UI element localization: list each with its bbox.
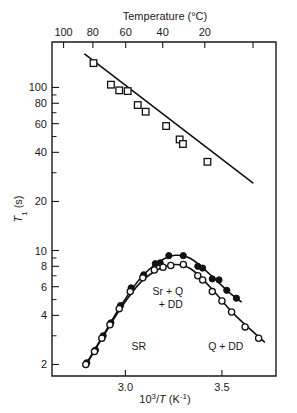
y-axis-title-text: T1 (s) bbox=[12, 195, 29, 222]
top-axis-title: Temperature (°C) bbox=[123, 10, 207, 22]
data-point-open bbox=[83, 361, 89, 367]
data-point-open bbox=[127, 288, 133, 294]
data-point-square bbox=[124, 88, 131, 95]
figure-container: Temperature (°C) 10080604020 10080604020… bbox=[0, 0, 297, 413]
data-point-open bbox=[151, 267, 157, 273]
data-point-open bbox=[256, 335, 262, 341]
x-axis-title: 103/T (K-1) bbox=[139, 392, 190, 406]
data-point-filled bbox=[216, 277, 222, 283]
arrhenius-plot: Temperature (°C) 10080604020 10080604020… bbox=[0, 0, 297, 413]
x-tick-label: 3.0 bbox=[118, 381, 133, 393]
data-point-open bbox=[209, 288, 215, 294]
annotation-label: Q + DD bbox=[208, 340, 244, 352]
data-point-filled bbox=[200, 265, 206, 271]
data-point-open bbox=[91, 348, 97, 354]
top-tick-label: 20 bbox=[199, 26, 211, 38]
data-point-open bbox=[242, 324, 248, 330]
annotation-label: + DD bbox=[159, 298, 184, 310]
data-point-filled bbox=[224, 287, 230, 293]
data-point-square bbox=[90, 60, 97, 67]
x-axis-ticks bbox=[125, 370, 222, 376]
y-axis-title: T1 (s) bbox=[12, 195, 29, 222]
data-point-open bbox=[200, 277, 206, 283]
y-tick-label: 4 bbox=[41, 309, 47, 321]
fit-line bbox=[85, 54, 253, 183]
top-tick-label: 40 bbox=[157, 26, 169, 38]
data-point-open bbox=[228, 309, 234, 315]
y-tick-label: 8 bbox=[41, 260, 47, 272]
data-point-filled bbox=[209, 276, 215, 282]
data-point-square bbox=[163, 123, 170, 130]
data-point-open bbox=[168, 262, 174, 268]
y-tick-label: 40 bbox=[35, 146, 47, 158]
data-point-open bbox=[180, 261, 186, 267]
y-tick-label: 2 bbox=[41, 358, 47, 370]
data-point-filled bbox=[233, 295, 239, 301]
y-tick-label: 10 bbox=[35, 245, 47, 257]
x-tick-label: 3.5 bbox=[214, 381, 229, 393]
y-axis-tick-labels: 10080604020108642 bbox=[29, 81, 47, 370]
data-point-open bbox=[99, 335, 105, 341]
data-point-open bbox=[160, 264, 166, 270]
y-tick-label: 60 bbox=[35, 118, 47, 130]
data-series-group bbox=[83, 54, 265, 367]
annotation-label: SR bbox=[132, 340, 147, 352]
x-axis-tick-labels: 3.03.5 bbox=[118, 381, 230, 393]
data-point-open bbox=[116, 306, 122, 312]
y-tick-label: 6 bbox=[41, 281, 47, 293]
top-tick-label: 100 bbox=[54, 26, 72, 38]
data-point-open bbox=[107, 322, 113, 328]
data-point-filled bbox=[166, 253, 172, 259]
y-tick-label: 80 bbox=[35, 97, 47, 109]
top-axis-title-text: Temperature (°C) bbox=[123, 10, 207, 22]
y-tick-label: 20 bbox=[35, 195, 47, 207]
data-point-square bbox=[180, 141, 187, 148]
y-axis-ticks bbox=[52, 87, 59, 364]
top-axis-ticks bbox=[64, 42, 253, 48]
data-point-square bbox=[116, 87, 123, 94]
top-tick-label: 80 bbox=[87, 26, 99, 38]
data-point-square bbox=[204, 159, 211, 166]
data-point-open bbox=[140, 275, 146, 281]
plot-annotations: SRSr + Q+ DDQ + DD bbox=[132, 285, 244, 352]
data-point-square bbox=[108, 81, 115, 88]
data-point-square bbox=[134, 102, 141, 109]
top-tick-label: 60 bbox=[120, 26, 132, 38]
series-upper-squares bbox=[85, 54, 253, 183]
top-axis-tick-labels: 10080604020 bbox=[54, 26, 211, 38]
x-axis-title-text: 103/T (K-1) bbox=[139, 392, 190, 406]
annotation-label: Sr + Q bbox=[153, 285, 184, 297]
data-point-open bbox=[219, 298, 225, 304]
data-point-square bbox=[142, 108, 149, 115]
y-tick-label: 100 bbox=[29, 81, 47, 93]
data-point-filled bbox=[180, 253, 186, 259]
